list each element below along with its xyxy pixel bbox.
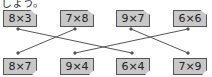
card-top-3[interactable]: 9×7 — [116, 10, 150, 27]
line-7x8-8x7 — [18, 29, 75, 53]
card-bottom-2[interactable]: 9×4 — [60, 58, 94, 75]
card-bottom-1[interactable]: 8×7 — [3, 58, 37, 75]
card-bottom-4[interactable]: 7×9 — [173, 58, 207, 75]
line-8x3-6x4 — [18, 29, 132, 53]
line-6x6-9x4 — [75, 29, 188, 53]
line-9x7-7x9 — [131, 29, 188, 53]
card-top-4[interactable]: 6×6 — [173, 10, 207, 27]
card-top-2[interactable]: 7×8 — [60, 10, 94, 27]
card-bottom-3[interactable]: 6×4 — [116, 58, 150, 75]
card-top-1[interactable]: 8×3 — [3, 10, 37, 27]
